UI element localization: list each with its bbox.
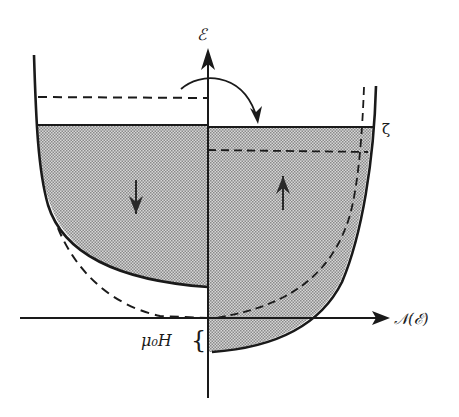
transfer-arrowhead [250,106,262,124]
field-shift-brace: { [191,326,206,354]
x-axis-label: 𝒩(ℰ) [394,310,429,328]
dos-diagram: ℰ 𝒩(ℰ) ζ μ₀H { [0,0,459,417]
y-axis-label: ℰ [197,25,209,44]
field-shift-label: μ₀H [141,331,173,350]
left-dashed-level [38,97,208,98]
left-band-fill [38,125,208,287]
transfer-arrow [181,78,255,112]
fermi-level-label: ζ [382,120,390,138]
